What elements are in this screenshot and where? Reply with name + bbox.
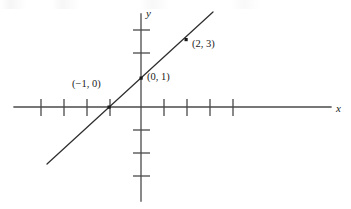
coordinate-plane [0,0,351,209]
point-label-y-intercept: (0, 1) [147,72,170,83]
graph-figure: y x (−1, 0) (0, 1) (2, 3) [0,0,351,209]
point-label-x-intercept: (−1, 0) [72,79,101,90]
x-axis-label: x [336,103,341,114]
point-label-2-3: (2, 3) [192,39,215,50]
y-axis-label: y [146,8,151,19]
point-marker-x-intercept [108,106,111,109]
point-marker-2-3 [185,38,188,41]
point-marker-y-intercept [140,77,143,80]
